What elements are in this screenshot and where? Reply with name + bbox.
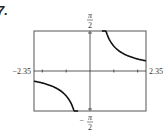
- left-branch-curve: [34, 81, 78, 111]
- y-min-label: − π 2: [79, 113, 93, 132]
- x-max-label: 2.35: [149, 67, 163, 76]
- y-max-label: π 2: [87, 11, 93, 30]
- svg-text:−: −: [79, 116, 84, 125]
- right-branch-curve: [102, 31, 146, 61]
- x-min-label: −2.35: [12, 67, 31, 76]
- svg-text:2: 2: [88, 123, 92, 132]
- svg-text:2: 2: [88, 21, 92, 30]
- graph: −2.35 2.35 π 2 − π 2: [0, 0, 168, 140]
- svg-text:π: π: [88, 11, 93, 20]
- svg-text:π: π: [88, 113, 93, 122]
